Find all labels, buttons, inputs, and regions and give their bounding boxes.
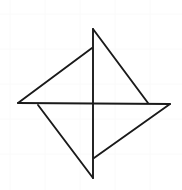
pinwheel-figure	[0, 0, 182, 190]
figure-canvas	[0, 0, 182, 190]
